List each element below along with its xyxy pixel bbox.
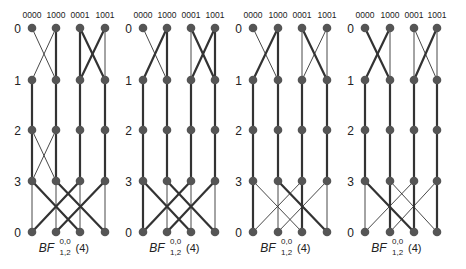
panel-nodes <box>249 24 332 237</box>
stage-label: 3 <box>235 175 242 189</box>
node-r3-c0 <box>249 177 258 186</box>
panel-edges <box>143 28 215 232</box>
node-r3-c0 <box>139 177 148 186</box>
caption-superscript: 0,0 <box>392 237 404 246</box>
node-r0-c1 <box>274 24 283 33</box>
caption-argument: (4) <box>186 242 199 254</box>
node-r1-c2 <box>410 76 419 85</box>
panel-edges <box>253 28 327 232</box>
panel-caption: BF0,01,2(4) <box>371 237 421 257</box>
caption-subscript: 1,2 <box>60 248 72 257</box>
node-r0-c3 <box>101 24 110 33</box>
node-r2-c0 <box>361 126 370 135</box>
node-r3-c3 <box>211 177 220 186</box>
row-labels: 01230 <box>235 22 242 240</box>
row-labels: 01230 <box>347 22 354 240</box>
node-r3-c3 <box>323 177 332 186</box>
node-r2-c3 <box>323 126 332 135</box>
butterfly-network-figure: 000010000001100101230BF0,01,2(4)00001000… <box>0 0 466 269</box>
column-label: 1000 <box>47 10 66 20</box>
node-r0-c2 <box>187 24 196 33</box>
node-r1-c1 <box>163 76 172 85</box>
stage-label: 2 <box>347 124 354 138</box>
node-r4-c0 <box>249 228 258 237</box>
node-r4-c0 <box>28 228 37 237</box>
column-labels: 0000100000011001 <box>134 10 225 20</box>
node-r4-c3 <box>101 228 110 237</box>
node-r3-c0 <box>28 177 37 186</box>
stage-label: 2 <box>14 124 21 138</box>
node-r4-c1 <box>386 228 395 237</box>
caption-subscript: 1,2 <box>281 248 293 257</box>
butterfly-diagram-canvas: 000010000001100101230BF0,01,2(4)00001000… <box>0 0 466 269</box>
node-r2-c1 <box>274 126 283 135</box>
node-r0-c3 <box>433 24 442 33</box>
node-r4-c0 <box>361 228 370 237</box>
column-label: 0000 <box>244 10 263 20</box>
caption-base: BF <box>371 241 387 255</box>
node-r3-c1 <box>274 177 283 186</box>
stage-label: 0 <box>347 22 354 36</box>
node-r0-c0 <box>28 24 37 33</box>
stage-label: 1 <box>125 74 132 88</box>
stage-label: 0 <box>14 226 21 240</box>
column-label: 0001 <box>405 10 424 20</box>
stage-label: 0 <box>125 22 132 36</box>
node-r4-c3 <box>433 228 442 237</box>
caption-superscript: 0,0 <box>170 237 182 246</box>
node-r2-c2 <box>76 126 85 135</box>
panel-edges <box>32 28 105 232</box>
panel-nodes <box>28 24 110 237</box>
caption-superscript: 0,0 <box>281 237 293 246</box>
node-r3-c1 <box>52 177 61 186</box>
caption-base: BF <box>39 241 55 255</box>
node-r0-c0 <box>249 24 258 33</box>
node-r3-c2 <box>410 177 419 186</box>
node-r2-c1 <box>163 126 172 135</box>
panel-2: 000010000001100101230BF0,01,2(4) <box>125 10 224 257</box>
node-r0-c3 <box>323 24 332 33</box>
node-r4-c1 <box>163 228 172 237</box>
column-label: 1001 <box>206 10 225 20</box>
stage-label: 0 <box>347 226 354 240</box>
node-r1-c2 <box>76 76 85 85</box>
node-r1-c1 <box>386 76 395 85</box>
panel-nodes <box>139 24 220 237</box>
caption-argument: (4) <box>76 242 89 254</box>
stage-label: 0 <box>235 226 242 240</box>
node-r1-c2 <box>187 76 196 85</box>
node-r3-c3 <box>433 177 442 186</box>
row-labels: 01230 <box>14 22 21 240</box>
node-r2-c0 <box>28 126 37 135</box>
column-labels: 0000100000011001 <box>356 10 447 20</box>
stage-label: 0 <box>125 226 132 240</box>
node-r4-c1 <box>274 228 283 237</box>
node-r1-c3 <box>323 76 332 85</box>
column-label: 1001 <box>96 10 115 20</box>
panel-nodes <box>361 24 442 237</box>
caption-argument: (4) <box>297 242 310 254</box>
column-labels: 0000100000011001 <box>23 10 115 20</box>
stage-label: 2 <box>235 124 242 138</box>
node-r0-c2 <box>76 24 85 33</box>
node-r3-c3 <box>101 177 110 186</box>
node-r2-c2 <box>298 126 307 135</box>
stage-label: 1 <box>14 74 21 88</box>
node-r0-c2 <box>298 24 307 33</box>
panel-4: 000010000001100101230BF0,01,2(4) <box>347 10 446 257</box>
node-r1-c3 <box>433 76 442 85</box>
column-label: 1000 <box>269 10 288 20</box>
node-r0-c2 <box>410 24 419 33</box>
panel-edges <box>365 28 437 232</box>
column-label: 1001 <box>428 10 447 20</box>
node-r3-c1 <box>386 177 395 186</box>
caption-superscript: 0,0 <box>60 237 72 246</box>
node-r1-c0 <box>249 76 258 85</box>
node-r2-c3 <box>211 126 220 135</box>
node-r2-c0 <box>249 126 258 135</box>
column-label: 0000 <box>356 10 375 20</box>
panel-caption: BF0,01,2(4) <box>39 237 89 257</box>
column-label: 1000 <box>158 10 177 20</box>
node-r0-c0 <box>139 24 148 33</box>
node-r0-c1 <box>52 24 61 33</box>
